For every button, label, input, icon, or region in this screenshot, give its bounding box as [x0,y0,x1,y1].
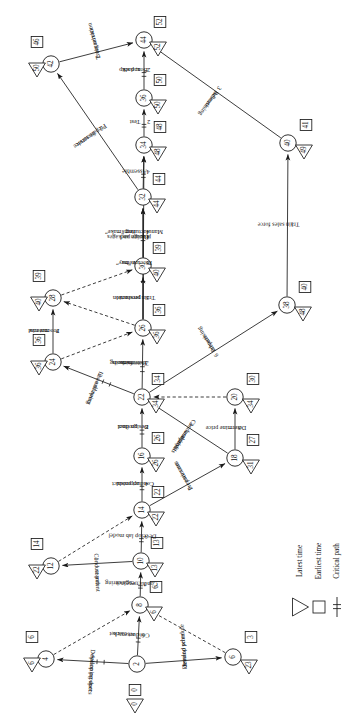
activity-label-40-44: advertising [197,91,219,119]
latest-value-32: 44 [153,200,161,208]
duration-34-36: 2 [147,119,150,126]
node-id-16: 16 [138,452,146,460]
node-id-38: 38 [283,301,291,309]
earliest-time-20: 30 [247,374,259,385]
earliest-value-18: 27 [249,436,257,444]
latest-time-14: 22 [148,512,165,526]
earliest-value-6: 3 [247,635,255,639]
activity-label-38-40: Train sales force [257,222,299,229]
latest-time-26: 36 [149,330,166,344]
latest-value-16: 26 [152,459,160,467]
latest-time-4: 6 [24,658,41,672]
critical-path-ticks [97,73,146,665]
node-10: 10 [133,553,149,569]
activity-26-28 [64,302,135,326]
activity-label-18-20: Determine price [205,425,246,432]
earliest-time-30: 39 [153,243,165,254]
earliest-time-40: 41 [300,120,312,131]
node-id-18: 18 [231,454,239,462]
legend-label-critical-path: Critical path [333,543,341,579]
nodes-layer: 2004666323866101313121422142222162626182… [24,17,313,713]
legend: Latest timeEarliest timeCritical path [293,543,342,617]
node-26: 26 [135,320,151,336]
node-8: 8 [132,597,148,613]
node-6: 6 [225,649,241,665]
earliest-time-36: 50 [154,75,166,86]
node-20: 20 [227,389,243,405]
latest-time-34: 48 [150,147,167,161]
latest-time-18: 31 [243,460,260,474]
activity-label-2-8: research [113,631,135,639]
earliest-value-36: 50 [156,76,164,84]
pert-network-diagram: 2004666323866101313121422142222162626182… [0,0,358,713]
latest-time-30: 40 [149,268,166,282]
earliest-value-42: 46 [33,38,41,46]
earliest-value-2: 0 [131,688,139,692]
activity-label-14-18: estimates [171,460,189,484]
earliest-time-26: 36 [153,305,165,316]
node-16: 16 [134,448,150,464]
activity-label-2-4: planning specs [87,657,96,695]
activity-label-26-30: personnel [116,295,141,302]
latest-value-38: 48 [299,308,307,316]
node-18: 18 [227,450,243,466]
latest-time-16: 26 [148,458,165,472]
activity-label-8-10: research [115,580,137,587]
earliest-value-22: 34 [154,375,162,383]
triangle-icon [293,598,309,616]
node-id-34: 34 [140,141,148,149]
latest-time-32: 44 [149,199,166,213]
earliest-value-44: 52 [156,18,164,26]
earliest-time-44: 52 [154,17,166,28]
node-36: 36 [136,90,152,106]
earliest-value-40: 41 [302,121,310,129]
node-id-8: 8 [136,603,144,607]
activity-label-18-22: analysis [170,434,187,455]
network-svg: 2004666323866101313121422142222162626182… [0,0,358,713]
activity-label-32-42: literature [74,130,97,149]
earliest-time-12: 14 [31,539,43,550]
latest-value-2: 0 [131,702,139,706]
node-id-2: 2 [133,662,141,666]
node-38: 38 [279,297,295,313]
node-id-24: 24 [49,358,57,366]
node-id-28: 28 [49,294,57,302]
latest-value-14: 22 [152,513,160,521]
legend-item-latest-time: Latest time [293,545,309,616]
earliest-value-34: 48 [156,123,164,131]
node-id-20: 20 [231,393,239,401]
latest-value-20: 34 [247,400,255,408]
activity-label-32-34: Assemble [122,168,147,175]
latest-value-24: 36 [35,362,43,370]
earliest-value-28: 39 [35,272,43,280]
node-id-40: 40 [284,139,292,147]
latest-time-28: 40 [31,297,48,311]
earliest-value-30: 39 [155,244,163,252]
earliest-time-18: 27 [247,435,259,446]
legend-item-critical-path: Critical path [333,543,341,617]
node-id-22: 22 [138,393,146,401]
earliest-value-20: 30 [249,375,257,383]
latest-value-26: 36 [153,331,161,339]
latest-value-30: 40 [153,269,161,277]
latest-time-20: 34 [243,399,260,413]
node-40: 40 [280,135,296,151]
latest-value-10: 13 [151,564,159,572]
latest-value-34: 48 [154,148,162,156]
diagram-canvas: 2004666323866101313121422142222162626182… [0,0,358,713]
node-34: 34 [136,137,152,153]
latest-time-42: 50 [29,63,46,77]
node-32: 32 [135,189,151,205]
earliest-value-14: 22 [154,488,162,496]
activity-label-10-12: search [94,570,102,587]
node-44: 44 [136,32,152,48]
latest-value-22: 34 [152,400,160,408]
node-id-6: 6 [229,655,237,659]
latest-value-40: 49 [300,146,308,154]
earliest-value-4: 6 [28,635,36,639]
node-id-42: 42 [47,60,55,68]
earliest-time-16: 26 [152,433,164,444]
activity-24-26 [61,332,132,359]
earliest-value-12: 14 [33,540,41,548]
activity-label-30-32: items [121,229,135,236]
